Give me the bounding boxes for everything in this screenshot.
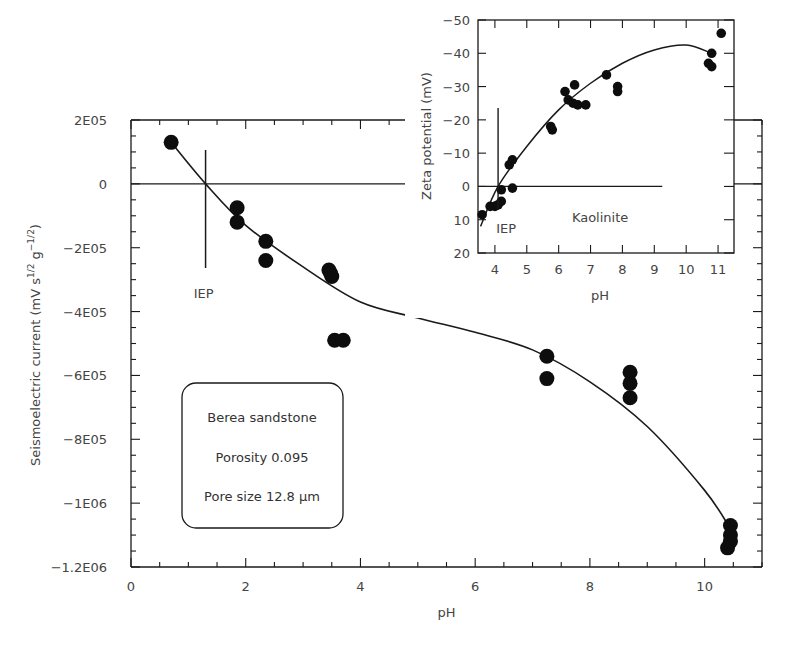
data-point xyxy=(230,215,245,230)
inset-x-tick-label: 9 xyxy=(650,262,658,277)
inset-x-tick-label: 7 xyxy=(586,262,594,277)
x-tick-label: 10 xyxy=(696,579,713,594)
inset-data-point xyxy=(570,80,580,90)
inset-y-tick-label: 0 xyxy=(462,179,470,194)
legend-box: Berea sandstonePorosity 0.095Pore size 1… xyxy=(182,383,343,528)
inset-y-axis-title: Zeta potential (mV) xyxy=(419,72,434,200)
inset-plot: 4567891011−50−40−30−20−1001020pHZeta pot… xyxy=(405,0,734,318)
inset-x-tick-label: 11 xyxy=(710,262,727,277)
inset-x-tick-label: 10 xyxy=(678,262,695,277)
x-tick-label: 4 xyxy=(356,579,364,594)
inset-x-tick-label: 5 xyxy=(523,262,531,277)
inset-data-point xyxy=(602,70,612,80)
inset-y-tick-label: −40 xyxy=(443,46,470,61)
inset-y-tick-label: 10 xyxy=(453,213,470,228)
inset-data-point xyxy=(707,48,717,58)
inset-data-point xyxy=(560,87,570,97)
inset-x-tick-label: 4 xyxy=(491,262,499,277)
y-tick-label: 2E05 xyxy=(74,113,107,128)
data-point xyxy=(623,390,638,405)
inset-data-point xyxy=(508,155,518,165)
data-point xyxy=(258,253,273,268)
data-point xyxy=(623,376,638,391)
inset-data-point xyxy=(477,210,487,220)
data-point xyxy=(336,333,351,348)
inset-data-point xyxy=(716,29,726,39)
data-point xyxy=(230,200,245,215)
x-tick-label: 6 xyxy=(471,579,479,594)
y-tick-label: 0 xyxy=(99,177,107,192)
inset-y-tick-label: −50 xyxy=(443,13,470,28)
data-point xyxy=(323,266,338,281)
iep-label: IEP xyxy=(194,286,214,301)
inset-data-point xyxy=(707,62,717,72)
y-tick-label: −1.2E06 xyxy=(51,560,107,575)
y-axis-title: Seismoelectric current (mV s1/2 g−1/2) xyxy=(26,224,43,466)
inset-x-axis-title: pH xyxy=(591,288,609,303)
data-point xyxy=(539,371,554,386)
y-tick-label: −4E05 xyxy=(63,305,107,320)
inset-y-tick-label: 20 xyxy=(453,246,470,261)
inset-y-tick-label: −10 xyxy=(443,146,470,161)
inset-data-point xyxy=(547,125,557,135)
legend-line: Porosity 0.095 xyxy=(216,450,309,465)
x-tick-label: 8 xyxy=(586,579,594,594)
inset-y-tick-label: −20 xyxy=(443,113,470,128)
data-point xyxy=(720,540,735,555)
inset-data-point xyxy=(613,87,623,97)
y-tick-label: −8E05 xyxy=(63,432,107,447)
x-tick-label: 0 xyxy=(127,579,135,594)
data-point xyxy=(164,135,179,150)
y-tick-label: −2E05 xyxy=(63,241,107,256)
inset-y-tick-label: −30 xyxy=(443,80,470,95)
y-tick-label: −1E06 xyxy=(63,496,107,511)
inset-iep-label: IEP xyxy=(496,221,516,236)
inset-x-tick-label: 8 xyxy=(618,262,626,277)
legend-line: Berea sandstone xyxy=(207,410,316,425)
inset-data-point xyxy=(581,100,591,110)
data-point xyxy=(258,234,273,249)
inset-x-tick-label: 6 xyxy=(555,262,563,277)
legend-line: Pore size 12.8 µm xyxy=(204,489,320,504)
data-point xyxy=(539,349,554,364)
x-axis-title: pH xyxy=(437,605,455,620)
x-tick-label: 2 xyxy=(242,579,250,594)
inset-data-point xyxy=(508,183,518,193)
inset-title-kaolinite: Kaolinite xyxy=(572,210,628,225)
chart-canvas: 02468102E050−2E05−4E05−6E05−8E05−1E06−1.… xyxy=(0,0,785,649)
y-tick-label: −6E05 xyxy=(63,368,107,383)
